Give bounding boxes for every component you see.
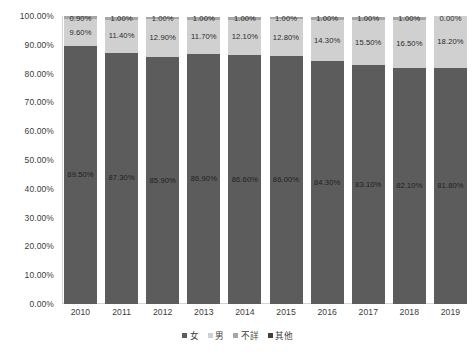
bar-segment[interactable]: 11.70%	[187, 20, 220, 54]
bar-segment[interactable]: 15.50%	[352, 20, 385, 65]
x-axis-tick-label: 2018	[393, 307, 426, 317]
bar-segment[interactable]: 18.20%	[434, 16, 467, 68]
bar-segment-label: 1.00%	[357, 15, 379, 23]
bar-column[interactable]: 9.60%89.50%0.90%	[64, 16, 97, 304]
y-axis-tick-label: 20.00%	[25, 241, 54, 251]
bar-segment-label: 9.60%	[69, 29, 91, 37]
legend-item[interactable]: 女	[182, 329, 199, 341]
bar-column[interactable]: 18.20%81.80%0.00%	[434, 16, 467, 304]
legend-label: 女	[190, 329, 199, 341]
bar-segment-label: 0.90%	[69, 15, 91, 23]
bar-segment[interactable]: 89.50%	[64, 46, 97, 304]
bar-segment[interactable]: 16.50%	[393, 20, 426, 68]
bar-segment-label: 86.90%	[191, 175, 217, 183]
bar-segment[interactable]: 81.80%	[434, 68, 467, 304]
legend-swatch-icon	[182, 333, 187, 338]
legend-swatch-icon	[208, 333, 213, 338]
bar-segment-label: 1.00%	[234, 15, 256, 23]
bar-segment[interactable]: 86.00%	[270, 56, 303, 304]
bar-segment-label: 87.30%	[108, 174, 134, 182]
bar-segment-label: 1.00%	[152, 15, 174, 23]
bar-segment-label: 82.10%	[396, 182, 422, 190]
legend-swatch-icon	[233, 333, 238, 338]
x-axis-tick-label: 2011	[105, 307, 138, 317]
x-axis-tick-label: 2013	[187, 307, 220, 317]
bar-segment[interactable]: 84.30%	[311, 61, 344, 304]
bar-segment-label: 84.30%	[314, 179, 340, 187]
bar-segment-label: 89.50%	[67, 171, 93, 179]
bar-segment[interactable]: 86.60%	[228, 55, 261, 304]
bar-segment-label: 14.30%	[314, 37, 340, 45]
bar-segment-label: 0.00%	[439, 15, 461, 23]
bar-column[interactable]: 15.50%83.10%1.00%	[352, 16, 385, 304]
bar-segment-label: 81.80%	[437, 182, 463, 190]
legend-label: 不詳	[241, 329, 259, 341]
bar-segment-label: 16.50%	[396, 40, 422, 48]
bar-segment-label: 1.00%	[111, 15, 133, 23]
bar-column[interactable]: 11.40%87.30%1.00%	[105, 16, 138, 304]
bar-segment[interactable]: 12.10%	[228, 20, 261, 55]
bar-segment-label: 12.80%	[273, 34, 299, 42]
bar-segment-label: 11.70%	[191, 33, 217, 41]
y-axis-tick-label: 30.00%	[25, 213, 54, 223]
bar-segment-label: 12.10%	[232, 33, 258, 41]
bar-segment[interactable]: 86.90%	[187, 54, 220, 304]
bar-segment[interactable]: 83.10%	[352, 65, 385, 304]
bar-series-container: 9.60%89.50%0.90%11.40%87.30%1.00%12.90%8…	[64, 16, 467, 304]
y-axis-tick-label: 90.00%	[25, 40, 54, 50]
legend-label: 其他	[275, 329, 293, 341]
bar-segment-label: 11.40%	[109, 32, 135, 40]
x-axis-tick-label: 2014	[228, 307, 261, 317]
bar-segment[interactable]: 11.40%	[105, 20, 138, 53]
x-axis-tick-label: 2017	[352, 307, 385, 317]
bar-segment[interactable]: 82.10%	[393, 68, 426, 304]
x-axis-tick-label: 2019	[434, 307, 467, 317]
x-axis-tick-label: 2010	[64, 307, 97, 317]
bar-segment-label: 1.00%	[275, 15, 297, 23]
bar-segment-label: 1.00%	[398, 15, 420, 23]
y-axis-tick-label: 60.00%	[25, 126, 54, 136]
y-axis-tick-label: 40.00%	[25, 184, 54, 194]
bar-segment-label: 15.50%	[355, 39, 381, 47]
y-axis: 100.00%90.00%80.00%70.00%60.00%50.00%40.…	[0, 16, 58, 304]
legend-item[interactable]: 不詳	[233, 329, 259, 341]
bar-segment-label: 18.20%	[437, 38, 463, 46]
plot-area: 9.60%89.50%0.90%11.40%87.30%1.00%12.90%8…	[62, 16, 467, 304]
bar-column[interactable]: 16.50%82.10%1.00%	[393, 16, 426, 304]
y-axis-tick-label: 0.00%	[29, 299, 54, 309]
bar-column[interactable]: 14.30%84.30%1.00%	[311, 16, 344, 304]
x-axis-tick-label: 2015	[270, 307, 303, 317]
bar-segment[interactable]: 12.90%	[146, 19, 179, 56]
bar-segment-label: 1.00%	[316, 15, 338, 23]
y-axis-tick-label: 70.00%	[25, 97, 54, 107]
bar-segment-label: 85.90%	[150, 177, 176, 185]
bar-segment-label: 12.90%	[150, 34, 176, 42]
y-axis-tick-label: 80.00%	[25, 69, 54, 79]
bar-column[interactable]: 12.80%86.00%1.00%	[270, 16, 303, 304]
x-axis-tick-label: 2016	[311, 307, 344, 317]
bar-segment[interactable]: 85.90%	[146, 57, 179, 304]
legend-item[interactable]: 男	[208, 329, 225, 341]
bar-column[interactable]: 12.90%85.90%1.00%	[146, 16, 179, 304]
y-axis-line	[62, 16, 63, 304]
bar-segment[interactable]: 14.30%	[311, 20, 344, 61]
bar-segment-label: 86.00%	[273, 176, 299, 184]
y-axis-tick-label: 100.00%	[20, 11, 54, 21]
legend-swatch-icon	[268, 333, 273, 338]
bar-segment-label: 86.60%	[232, 176, 258, 184]
stacked-column-chart: 100.00%90.00%80.00%70.00%60.00%50.00%40.…	[0, 0, 475, 359]
y-axis-tick-label: 10.00%	[25, 270, 54, 280]
legend-label: 男	[215, 329, 224, 341]
legend-item[interactable]: 其他	[268, 329, 294, 341]
chart-legend: 女男不詳其他	[0, 329, 475, 341]
x-axis: 2010201120122013201420152016201720182019	[64, 307, 467, 317]
bar-segment[interactable]: 87.30%	[105, 53, 138, 304]
x-axis-tick-label: 2012	[146, 307, 179, 317]
bar-segment-label: 1.00%	[193, 15, 215, 23]
bar-segment[interactable]: 12.80%	[270, 19, 303, 56]
bar-column[interactable]: 12.10%86.60%1.00%	[228, 16, 261, 304]
bar-column[interactable]: 11.70%86.90%1.00%	[187, 16, 220, 304]
bar-segment-label: 83.10%	[355, 181, 381, 189]
y-axis-tick-label: 50.00%	[25, 155, 54, 165]
